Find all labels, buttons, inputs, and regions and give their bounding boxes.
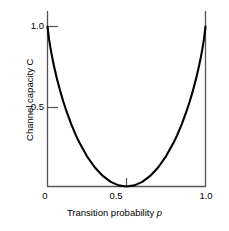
y-axis-title: Channel capacity C [25,20,35,180]
chart-figure: 1.0 0.5 0 0.5 1.0 Transition probability… [0,0,229,231]
capacity-curve [48,27,206,187]
x-tick-label-0: 0 [38,191,52,201]
x-axis-title-text: Transition probability [67,207,157,218]
x-axis-title: Transition probability p [0,208,229,218]
x-tick-label-1.0: 1.0 [195,191,217,201]
x-tick-label-0.5: 0.5 [105,191,127,201]
x-axis-title-variable: p [157,207,162,218]
